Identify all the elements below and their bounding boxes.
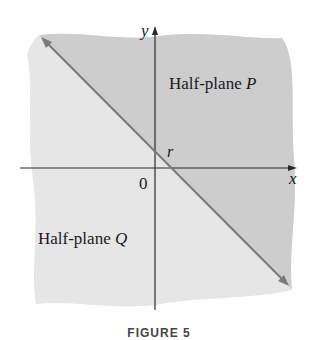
half-plane-q-label: Half-plane Q xyxy=(38,229,127,248)
half-plane-q-prefix: Half-plane xyxy=(38,229,115,248)
y-axis-arrow-icon xyxy=(152,26,158,35)
half-plane-p-prefix: Half-plane xyxy=(169,74,246,93)
half-plane-q-var: Q xyxy=(115,229,127,248)
half-plane-p-label: Half-plane P xyxy=(169,74,256,93)
x-axis-label: x xyxy=(288,169,297,188)
intercept-label: r xyxy=(167,143,174,160)
figure-caption: FIGURE 5 xyxy=(0,326,318,340)
half-plane-p-var: P xyxy=(245,74,256,93)
origin-label: 0 xyxy=(139,174,148,193)
y-axis-label: y xyxy=(139,21,149,40)
